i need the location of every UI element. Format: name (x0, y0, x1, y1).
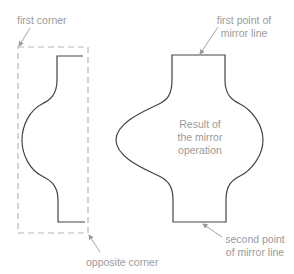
second-point-label: second point of mirror line (217, 233, 293, 259)
first-point-label-line1: first point of (204, 14, 284, 27)
opposite-corner-leader (89, 235, 100, 252)
opposite-corner-label: opposite corner (86, 256, 158, 269)
result-label: Result of the mirror operation (165, 118, 235, 157)
original-profile (22, 56, 85, 222)
first-point-label-line2: mirror line (204, 27, 284, 40)
first-corner-label: first corner (17, 14, 67, 27)
selection-window (18, 47, 88, 233)
second-point-label-line1: second point (217, 233, 293, 246)
result-label-line3: operation (165, 144, 235, 157)
result-label-line2: the mirror (165, 131, 235, 144)
first-point-label: first point of mirror line (204, 14, 284, 40)
first-corner-leader (19, 28, 30, 46)
second-point-label-line2: of mirror line (217, 246, 293, 259)
result-label-line1: Result of (165, 118, 235, 131)
